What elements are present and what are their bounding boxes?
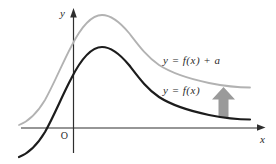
figure-canvas: y x O y = f(x) + a y = f(x): [0, 0, 276, 164]
x-axis-arrowhead-icon: [257, 124, 266, 130]
curve-label-f: y = f(x): [162, 84, 200, 97]
axes: [21, 8, 266, 153]
y-axis-label: y: [59, 7, 65, 19]
x-axis-label: x: [259, 133, 265, 145]
function-translation-figure: y x O y = f(x) + a y = f(x): [0, 0, 276, 164]
origin-label: O: [61, 130, 68, 141]
y-axis-arrowhead-icon: [70, 8, 77, 18]
curve-label-f-plus-a: y = f(x) + a: [162, 54, 221, 67]
up-shift-arrow-icon: [212, 87, 235, 117]
curve-f-plus-a: [19, 15, 250, 125]
